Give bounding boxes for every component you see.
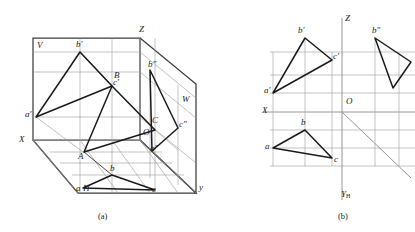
front-projection-triangle (36, 52, 112, 117)
label-c-front-a: c′ (113, 78, 119, 87)
label-b-front-a: b′ (76, 40, 82, 49)
label-plane-w: W (182, 95, 190, 104)
label-origin-b: O (346, 97, 353, 106)
label-point-A: A (78, 152, 84, 161)
label-b-front-b: b′ (298, 26, 304, 35)
panel-a-drawing (0, 0, 215, 215)
axes-panel-b (263, 18, 415, 200)
construction-lines-panel-b (270, 38, 415, 166)
label-a-top-a: a (76, 184, 81, 193)
label-axis-z-a: Z (139, 25, 144, 34)
label-axis-x-b: X (262, 106, 268, 115)
projection-connectors (80, 52, 112, 175)
label-plane-h: H (83, 184, 90, 193)
label-axis-z-b: Z (345, 14, 350, 23)
label-origin-a: O (143, 128, 150, 137)
caption-panel-a: (a) (98, 211, 107, 221)
figure-root: V H W X Z y O A B C a′ b′ c′ a b c a″ b″… (0, 0, 415, 232)
front-projection-triangle-b (273, 38, 332, 93)
label-axis-y-a: y (199, 183, 203, 192)
top-projection-triangle-b (273, 130, 332, 158)
label-plane-v: V (37, 41, 43, 50)
space-triangle-ABC (84, 86, 155, 152)
label-c-front-b: c′ (333, 52, 339, 61)
label-c-side-a: c″ (179, 120, 187, 129)
label-a-front-b: a′ (264, 86, 270, 95)
top-projection-triangle (83, 175, 155, 190)
label-b-top-a: b (110, 164, 115, 173)
label-yh-subscript: H (346, 193, 350, 199)
panel-b-drawing (215, 0, 415, 215)
plane-v-outline (33, 38, 140, 140)
side-projection-triangle (150, 70, 178, 151)
label-a-front-a: a′ (25, 110, 31, 119)
label-c-top-a: c (152, 185, 156, 194)
label-point-C: C (152, 116, 158, 125)
side-projection-triangle-b (375, 38, 411, 88)
caption-panel-b: (b) (338, 211, 348, 221)
label-c-top-b: c (334, 155, 338, 164)
label-axis-yh-b: YH (341, 190, 350, 199)
label-axis-x-a: X (19, 135, 25, 144)
label-b-top-b: b (301, 118, 306, 127)
label-a-top-b: a (265, 142, 270, 151)
label-b-side-b: b″ (372, 26, 380, 35)
label-a-side-a: a″ (150, 144, 158, 153)
label-b-side-a: b″ (148, 60, 156, 69)
